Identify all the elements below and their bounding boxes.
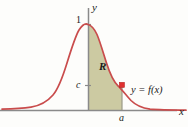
y-tick-label-c: c — [76, 80, 80, 90]
figure-container: y x 1 c a R y = f(x) — [0, 0, 188, 127]
x-tick-label-a: a — [119, 113, 124, 123]
region-label-R: R — [99, 61, 106, 72]
point-marker-a-c — [119, 82, 124, 87]
y-tick-label-one: 1 — [76, 15, 81, 25]
y-axis-label: y — [92, 2, 97, 13]
curve-label-function: y = f(x) — [131, 85, 163, 96]
function-graph-svg — [0, 0, 188, 127]
x-axis-label: x — [179, 106, 184, 117]
